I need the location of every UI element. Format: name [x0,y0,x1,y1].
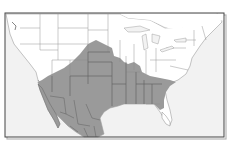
map-svg [0,0,236,144]
range-map [0,0,236,144]
